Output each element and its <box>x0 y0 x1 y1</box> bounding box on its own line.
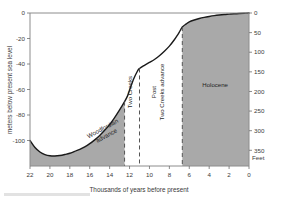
bottom-tick-label: 4 <box>207 171 211 178</box>
annotation-holocene-label: Holocene <box>202 81 228 88</box>
bottom-tick-label: 20 <box>46 171 53 178</box>
right-tick-label: 150 <box>254 68 265 75</box>
bottom-tick-label: 12 <box>126 171 133 178</box>
right-tick-label: 300 <box>254 127 265 134</box>
bottom-axis-ticks: 2220181614121086420 <box>27 166 252 178</box>
right-tick-label: 0 <box>254 9 258 16</box>
bottom-tick-label: 6 <box>188 171 192 178</box>
left-tick-label: -100 <box>13 137 26 144</box>
chart-canvas: 0-20-40-60-80-100 050100150200250300350 … <box>0 0 297 201</box>
right-tick-label: 50 <box>254 29 261 36</box>
bottom-tick-label: 16 <box>86 171 93 178</box>
bottom-tick-label: 10 <box>146 171 153 178</box>
annotation-two-creeks-label: Two Creeks <box>126 76 133 108</box>
bottom-tick-label: 2 <box>227 171 231 178</box>
bottom-tick-label: 0 <box>247 171 251 178</box>
right-tick-label: 350 <box>254 147 265 154</box>
y2-axis-unit-label: Feet <box>252 154 265 161</box>
right-tick-label: 250 <box>254 107 265 114</box>
left-tick-label: -60 <box>16 86 26 93</box>
left-tick-label: -80 <box>16 111 26 118</box>
sea-level-curve-figure: 0-20-40-60-80-100 050100150200250300350 … <box>0 0 297 201</box>
x-axis-title: Thousands of years before present <box>89 186 188 194</box>
bottom-tick-label: 22 <box>27 171 34 178</box>
bottom-tick-label: 14 <box>106 171 113 178</box>
left-axis-ticks: 0-20-40-60-80-100 <box>13 9 30 144</box>
bottom-tick-label: 8 <box>168 171 172 178</box>
bottom-tick-label: 18 <box>66 171 73 178</box>
left-tick-label: -20 <box>16 35 26 42</box>
right-tick-label: 200 <box>254 88 265 95</box>
left-tick-label: 0 <box>22 9 26 16</box>
page-edge-artifact <box>4 193 90 196</box>
right-axis-ticks: 050100150200250300350 <box>249 9 265 153</box>
y-axis-title: meters below present sea level <box>6 46 14 134</box>
annotation-post-two-creeks-label-line2: Two Creeks advance <box>158 63 165 121</box>
annotation-post-two-creeks-label-line1: Post <box>150 86 157 99</box>
left-tick-label: -40 <box>16 60 26 67</box>
right-tick-label: 100 <box>254 48 265 55</box>
